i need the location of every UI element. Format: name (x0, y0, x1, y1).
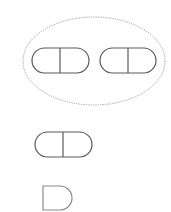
pill-shape-2 (100, 48, 156, 73)
pill-shape-1 (32, 48, 89, 73)
pill-shape-3 (35, 132, 92, 157)
half-pill-shape (43, 186, 72, 210)
diagram-canvas (0, 0, 171, 212)
group-ellipse (23, 17, 165, 105)
